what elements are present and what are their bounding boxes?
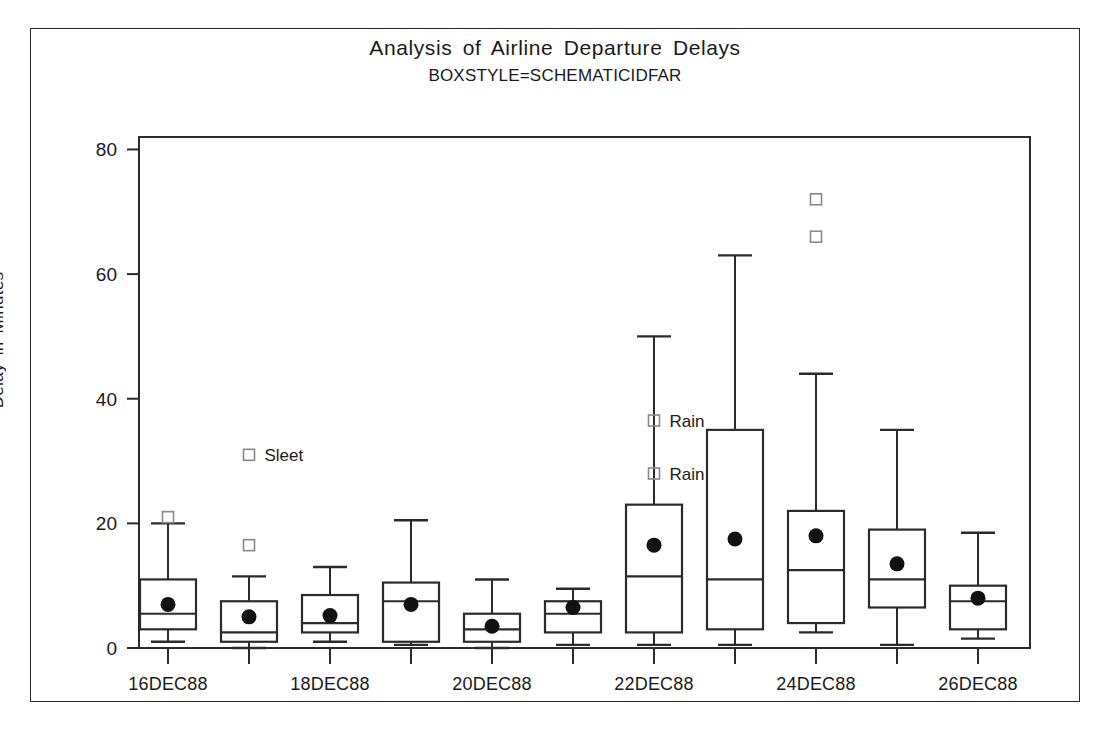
x-tick-label: 18DEC88 <box>290 674 369 694</box>
box-plot-group <box>869 430 925 645</box>
box-plot-group <box>707 255 763 644</box>
mean-marker <box>809 528 824 543</box>
outlier-annotation-label: Rain <box>670 412 705 431</box>
box-iqr <box>707 430 763 629</box>
box-plot-group <box>545 589 601 645</box>
box-iqr <box>626 505 682 633</box>
y-tick-label: 0 <box>106 638 117 659</box>
mean-marker <box>404 597 419 612</box>
y-tick-label: 80 <box>96 139 117 160</box>
mean-marker <box>323 608 338 623</box>
mean-marker <box>566 600 581 615</box>
x-tick-label: 24DEC88 <box>776 674 855 694</box>
outlier-marker <box>811 194 822 205</box>
outlier-marker <box>163 512 174 523</box>
mean-marker <box>890 556 905 571</box>
box-iqr <box>383 583 439 642</box>
box-plot-group <box>302 567 358 642</box>
y-tick-label: 20 <box>96 513 117 534</box>
plot-layer: 02040608016DEC8818DEC8820DEC8822DEC8824D… <box>96 137 1030 694</box>
y-tick-label: 60 <box>96 264 117 285</box>
outlier-marker <box>244 449 255 460</box>
box-plot-group <box>950 533 1006 639</box>
box-plot-group <box>788 194 844 633</box>
box-plot-group <box>140 512 196 642</box>
box-plot-canvas: 02040608016DEC8818DEC8820DEC8822DEC8824D… <box>0 0 1110 730</box>
box-plot-group <box>464 579 520 648</box>
box-plot-group: Sleet <box>221 446 304 648</box>
mean-marker <box>971 591 986 606</box>
figure-root: Analysis of Airline Departure Delays BOX… <box>0 0 1110 730</box>
plot-area-frame <box>139 137 1030 648</box>
mean-marker <box>485 619 500 634</box>
mean-marker <box>647 538 662 553</box>
x-tick-label: 26DEC88 <box>938 674 1017 694</box>
mean-marker <box>161 597 176 612</box>
x-tick-label: 20DEC88 <box>452 674 531 694</box>
box-plot-group <box>383 520 439 645</box>
outlier-marker <box>244 540 255 551</box>
box-plot-group: RainRain <box>626 336 704 644</box>
mean-marker <box>242 609 257 624</box>
outlier-marker <box>811 231 822 242</box>
y-tick-label: 40 <box>96 389 117 410</box>
outlier-annotation-label: Sleet <box>265 446 304 465</box>
x-tick-label: 22DEC88 <box>614 674 693 694</box>
box-iqr <box>788 511 844 623</box>
x-tick-label: 16DEC88 <box>128 674 207 694</box>
mean-marker <box>728 531 743 546</box>
outlier-annotation-label: Rain <box>670 465 705 484</box>
